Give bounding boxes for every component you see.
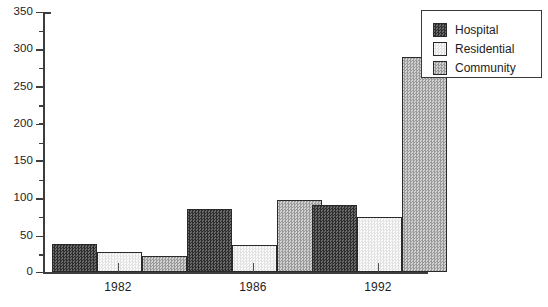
chart-legend: Hospital Residential Community (421, 10, 542, 78)
bar-1986-residential[interactable] (232, 245, 277, 272)
legend-item-community[interactable]: Community (433, 60, 516, 75)
bar-1992-hospital[interactable] (312, 205, 357, 272)
bar-1992-community[interactable] (402, 57, 447, 272)
legend-swatch-community-icon (433, 61, 447, 75)
bar-group-1982 (52, 0, 186, 272)
bar-1992-residential[interactable] (357, 217, 402, 272)
bar-1986-hospital[interactable] (187, 209, 232, 272)
bar-1982-residential[interactable] (97, 252, 142, 272)
legend-label-residential: Residential (455, 43, 514, 55)
legend-swatch-residential-icon (433, 42, 447, 56)
x-axis-label-1982: 1982 (88, 281, 148, 293)
x-tick-1992 (378, 263, 379, 272)
x-tick-1986 (253, 263, 254, 272)
legend-label-hospital: Hospital (455, 24, 498, 36)
bar-1982-community[interactable] (142, 256, 187, 272)
legend-item-residential[interactable]: Residential (433, 41, 514, 56)
legend-item-hospital[interactable]: Hospital (433, 22, 498, 37)
bar-group-1986 (187, 0, 321, 272)
legend-label-community: Community (455, 62, 516, 74)
bar-chart: 350 300 250 200 150 100 50 0 (0, 0, 548, 307)
x-tick-1982 (118, 263, 119, 272)
x-axis-line (43, 272, 428, 274)
x-axis-label-1986: 1986 (223, 281, 283, 293)
x-axis-label-1992: 1992 (348, 281, 408, 293)
legend-swatch-hospital-icon (433, 23, 447, 37)
bar-1982-hospital[interactable] (52, 244, 97, 272)
